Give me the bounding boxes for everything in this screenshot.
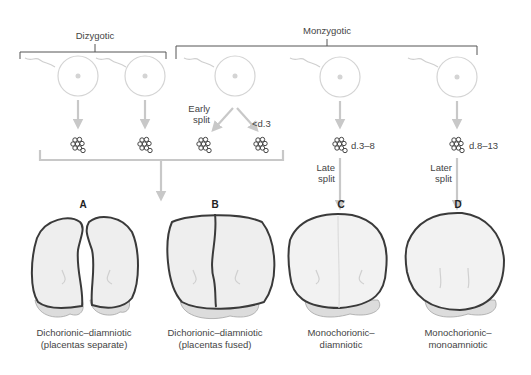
lt-d3-label: <d.3: [252, 118, 271, 129]
arrows: [40, 100, 457, 205]
panel-c-illustration: [289, 214, 387, 317]
panel-a-caption: Dichorionic–diamniotic (placentas separa…: [19, 327, 149, 351]
panel-a-illustration: [32, 217, 138, 317]
panel-c-letter: C: [331, 199, 351, 210]
panel-d-caption: Monochorionic– monoamniotic: [393, 327, 523, 351]
panel-c-caption: Monochorionic– diamniotic: [276, 327, 406, 351]
d8-13-label: d.8–13: [469, 140, 498, 151]
monozygotic-bracket: [176, 39, 477, 59]
panel-a-letter: A: [73, 199, 93, 210]
monozygotic-label: Monzygotic: [300, 25, 354, 36]
panel-b-illustration: [167, 214, 274, 319]
early-split-label: Early split: [184, 103, 210, 125]
panel-b-caption: Dichorionic–diamniotic (placentas fused): [150, 327, 280, 351]
panel-b-letter: B: [205, 199, 225, 210]
panel-d-illustration: [406, 213, 504, 317]
later-split-label: Later split: [420, 162, 452, 184]
morula-icons: [71, 137, 464, 152]
panel-d-letter: D: [448, 199, 468, 210]
d3-8-label: d.3–8: [351, 140, 375, 151]
dizygotic-label: Dizygotic: [73, 30, 117, 41]
late-split-label: Late split: [305, 162, 335, 184]
twinning-diagram: [0, 0, 531, 375]
egg-icons: [58, 56, 477, 97]
